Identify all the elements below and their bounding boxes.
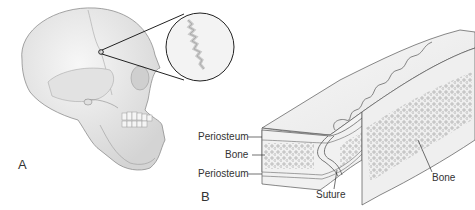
label-periosteum-top: Periosteum	[198, 132, 249, 142]
label-bone-left: Bone	[225, 150, 248, 160]
label-suture: Suture	[316, 190, 345, 200]
label-periosteum-bottom: Periosteum	[198, 169, 249, 179]
label-bone-right: Bone	[432, 173, 455, 183]
panel-label-a: A	[18, 158, 27, 171]
panel-label-b: B	[201, 190, 210, 203]
suture-figure: A B Periosteum Bone Periosteum Suture Bo…	[0, 0, 475, 210]
magnified-suture-circle	[166, 13, 234, 81]
